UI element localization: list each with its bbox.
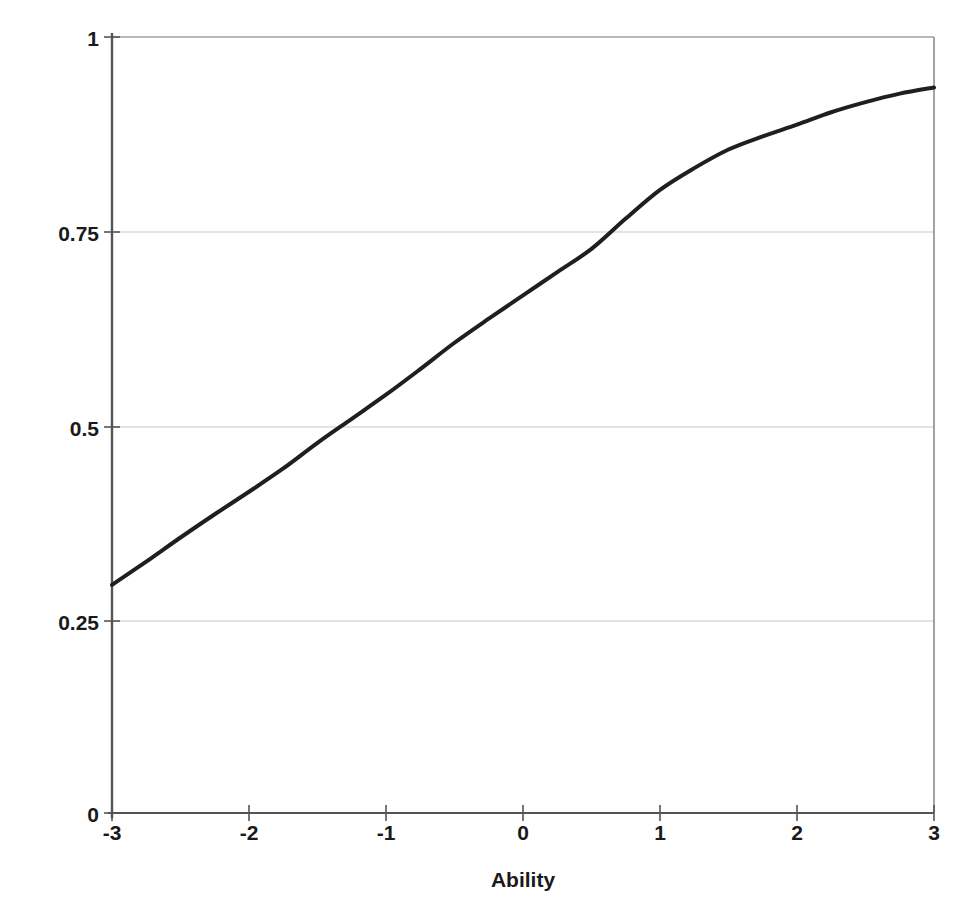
x-tick-label--2: -2 <box>209 822 289 843</box>
x-tick-label-0: 0 <box>483 822 563 843</box>
x-tick-label-1: 1 <box>620 822 700 843</box>
x-tick-label-3: 3 <box>894 822 965 843</box>
x-tick-label--3: -3 <box>72 822 152 843</box>
x-tick-label--1: -1 <box>346 822 426 843</box>
chart-figure: 0 0.25 0.5 0.75 1 -3 -2 -1 0 1 2 3 Proba… <box>0 0 965 920</box>
x-axis-title: Ability <box>112 868 934 892</box>
x-axis-tick-labels: -3 -2 -1 0 1 2 3 <box>0 0 965 920</box>
x-tick-label-2: 2 <box>757 822 837 843</box>
